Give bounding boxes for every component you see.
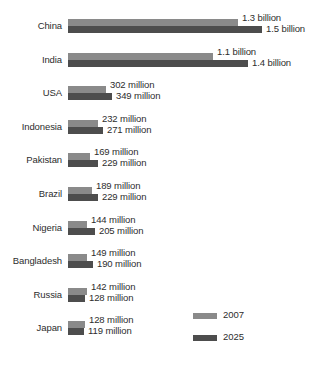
value-label-2007: 189 million [96, 180, 140, 191]
bar-2025 [68, 261, 93, 268]
bar-2025 [68, 60, 248, 67]
country-label: Nigeria [0, 222, 62, 233]
bar-2025 [68, 93, 112, 100]
value-label-2007: 128 million [89, 314, 133, 325]
chart-row: Bangladesh149 million190 million [0, 249, 322, 281]
value-label-2025: 128 million [89, 292, 133, 303]
country-label: China [0, 20, 62, 31]
bar-2025 [68, 26, 262, 33]
country-label: Bangladesh [0, 255, 62, 266]
bar-2025 [68, 328, 84, 335]
value-label-2025: 1.4 billion [252, 57, 291, 68]
country-label: Russia [0, 289, 62, 300]
value-label-2007: 1.1 billion [217, 46, 256, 57]
bar-2007 [68, 153, 90, 160]
value-label-2007: 144 million [91, 214, 135, 225]
country-label: India [0, 54, 62, 65]
legend-item-2007: 2007 [193, 309, 303, 323]
bar-2007 [68, 120, 98, 127]
bar-2007 [68, 288, 87, 295]
value-label-2025: 190 million [97, 258, 141, 269]
value-label-2025: 271 million [107, 124, 151, 135]
value-label-2007: 149 million [91, 247, 135, 258]
value-label-2025: 229 million [102, 157, 146, 168]
value-label-2007: 142 million [91, 281, 135, 292]
chart-row: India1.1 billion1.4 billion [0, 48, 322, 80]
value-label-2025: 119 million [88, 325, 132, 336]
value-label-2007: 169 million [94, 146, 138, 157]
chart-row: China1.3 billion1.5 billion [0, 14, 322, 46]
legend-label-2025: 2025 [223, 330, 244, 343]
bar-2007 [68, 321, 85, 328]
chart-row: Indonesia232 million271 million [0, 115, 322, 147]
bar-2025 [68, 295, 85, 302]
country-label: Brazil [0, 188, 62, 199]
value-label-2007: 1.3 billion [242, 12, 281, 23]
bar-2007 [68, 86, 106, 93]
bar-2025 [68, 127, 103, 134]
chart-row: Brazil189 million229 million [0, 182, 322, 214]
legend-item-2025: 2025 [193, 331, 303, 345]
country-label: Japan [0, 322, 62, 333]
bar-2007 [68, 19, 238, 26]
value-label-2025: 1.5 billion [266, 23, 305, 34]
country-label: USA [0, 87, 62, 98]
bar-2025 [68, 194, 98, 201]
bar-2007 [68, 254, 87, 261]
value-label-2007: 302 million [110, 79, 154, 90]
bar-2007 [68, 187, 92, 194]
value-label-2025: 349 million [116, 90, 160, 101]
value-label-2025: 205 million [99, 225, 143, 236]
legend-label-2007: 2007 [223, 308, 244, 321]
country-label: Pakistan [0, 154, 62, 165]
chart-row: USA302 million349 million [0, 81, 322, 113]
bar-2007 [68, 221, 87, 228]
country-label: Indonesia [0, 121, 62, 132]
value-label-2007: 232 million [102, 113, 146, 124]
chart-legend: 2007 2025 [193, 309, 303, 353]
legend-swatch-2025 [193, 335, 217, 341]
bar-2025 [68, 228, 95, 235]
value-label-2025: 229 million [102, 191, 146, 202]
bar-2025 [68, 160, 98, 167]
chart-row: Pakistan169 million229 million [0, 148, 322, 180]
legend-swatch-2007 [193, 313, 217, 319]
bar-2007 [68, 53, 213, 60]
chart-row: Nigeria144 million205 million [0, 216, 322, 248]
